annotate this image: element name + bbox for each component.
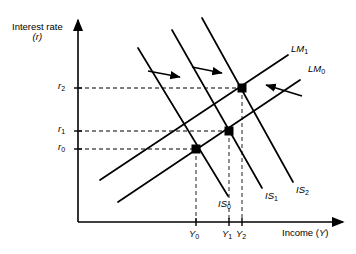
- y-tick-label-r2-sub: 2: [61, 85, 65, 92]
- x-tick-label-Y1: Y1: [222, 229, 232, 239]
- x-tick-label-Y0: Y0: [189, 229, 199, 239]
- curve-label-is1-base: IS: [265, 190, 274, 201]
- lm-curves: [100, 55, 300, 202]
- equilibrium-point-E1: [225, 127, 234, 136]
- y-tick-label-r1: r1: [58, 124, 65, 134]
- shift-arrows: [148, 67, 302, 96]
- x-tick-label-Y0-sub: 0: [195, 233, 199, 240]
- curve-label-is1-sub: 1: [274, 195, 278, 202]
- is2-curve: [202, 18, 293, 182]
- x-axis-title-text: Income (: [282, 227, 319, 238]
- curve-label-lm0-sub: 0: [321, 68, 325, 75]
- lm0-curve: [118, 80, 300, 202]
- y-tick-label-r2: r2: [58, 81, 65, 91]
- curve-label-lm0-base: LM: [308, 63, 321, 74]
- lm1-curve: [100, 55, 288, 180]
- equilibrium-point-E0: [192, 145, 201, 154]
- y-axis-title-line2: (r): [12, 32, 63, 42]
- curve-label-is0: IS0: [218, 199, 231, 209]
- y-tick-label-r1-sub: 1: [61, 128, 65, 135]
- y-tick-label-r0: r0: [58, 142, 65, 152]
- curve-label-lm0: LM0: [308, 64, 325, 74]
- x-tick-label-Y2: Y2: [236, 229, 246, 239]
- is1-curve: [172, 30, 262, 188]
- is-lm-diagram: Interest rate (r) Income (Y) r2 r1 r0 Y0…: [0, 0, 356, 254]
- is-shift-arrow-1: [148, 71, 180, 77]
- curve-label-is2-base: IS: [296, 184, 305, 195]
- x-tick-label-Y2-sub: 2: [242, 233, 246, 240]
- is-curves: [138, 18, 293, 196]
- curve-label-lm1: LM1: [291, 44, 308, 54]
- lm-shift-arrow: [266, 85, 302, 96]
- curve-label-is1: IS1: [265, 191, 278, 201]
- curve-label-lm1-base: LM: [291, 43, 304, 54]
- curve-label-is2: IS2: [296, 185, 309, 195]
- x-axis-title: Income (Y): [282, 228, 328, 238]
- curve-label-lm1-sub: 1: [304, 48, 308, 55]
- curve-label-is0-base: IS: [218, 198, 227, 209]
- y-tick-label-r0-sub: 0: [61, 146, 65, 153]
- x-tick-label-Y1-sub: 1: [228, 233, 232, 240]
- equilibrium-point-E2: [238, 84, 247, 93]
- y-axis-title: Interest rate (r): [12, 22, 63, 43]
- x-axis-title-end: ): [325, 227, 328, 238]
- y-axis-title-line1: Interest rate: [12, 21, 63, 32]
- curve-label-is2-sub: 2: [305, 189, 309, 196]
- curve-label-is0-sub: 0: [227, 203, 231, 210]
- equilibrium-points: [192, 84, 247, 154]
- is0-curve: [138, 48, 228, 196]
